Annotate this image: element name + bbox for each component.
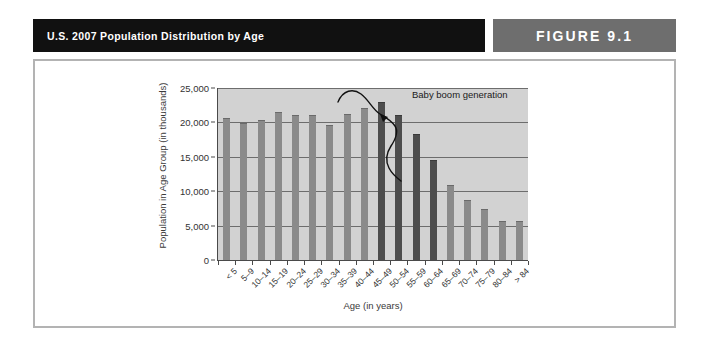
figure-number-label: FIGURE 9.1 xyxy=(536,28,633,44)
y-tick-label: 5,000 xyxy=(185,220,209,231)
x-tick-mark xyxy=(494,261,495,265)
bars-container xyxy=(218,88,528,260)
y-tick-label: 25,000 xyxy=(180,83,209,94)
y-tick-mark xyxy=(211,122,215,123)
y-axis-ticks: 25,00020,00015,00010,0005,0000 xyxy=(155,88,215,260)
x-tick-mark xyxy=(528,261,529,265)
x-tick-label: > 84 xyxy=(513,266,532,285)
bar-40-44 xyxy=(361,108,368,260)
bar-60-64 xyxy=(430,160,437,260)
x-tick-mark xyxy=(373,261,374,265)
y-tick-label: 10,000 xyxy=(180,186,209,197)
y-tick-mark xyxy=(211,225,215,226)
x-tick-mark xyxy=(218,261,219,265)
x-tick-mark xyxy=(235,261,236,265)
x-tick-mark xyxy=(287,261,288,265)
bar-20-24 xyxy=(292,115,299,260)
bar-5-9 xyxy=(240,123,247,260)
x-tick-mark xyxy=(511,261,512,265)
x-tick-mark xyxy=(459,261,460,265)
bar-45-49 xyxy=(378,102,385,260)
x-tick-mark xyxy=(252,261,253,265)
annotation-baby-boom-generation: Baby boom generation xyxy=(412,89,508,100)
x-tick-mark xyxy=(304,261,305,265)
x-tick-mark xyxy=(425,261,426,265)
bar-25-29 xyxy=(309,115,316,260)
bar-70-74 xyxy=(464,200,471,260)
x-tick-mark xyxy=(442,261,443,265)
y-tick-label: 20,000 xyxy=(180,117,209,128)
x-tick-mark xyxy=(321,261,322,265)
bar-75-79 xyxy=(481,209,488,260)
x-tick-mark xyxy=(270,261,271,265)
x-tick-mark xyxy=(339,261,340,265)
y-tick-mark xyxy=(211,88,215,89)
bar-80-84 xyxy=(499,221,506,260)
bar-55-59 xyxy=(413,134,420,260)
bar-15-19 xyxy=(275,112,282,260)
bar-5 xyxy=(223,118,230,260)
bar-50-54 xyxy=(395,115,402,260)
x-tick-mark xyxy=(356,261,357,265)
y-tick-mark xyxy=(211,191,215,192)
x-tick-label: < 5 xyxy=(223,266,239,282)
figure-header-band: U.S. 2007 Population Distribution by Age xyxy=(33,19,485,52)
bar-84 xyxy=(516,221,523,260)
x-tick-mark xyxy=(390,261,391,265)
bar-35-39 xyxy=(344,114,351,260)
x-tick-mark xyxy=(476,261,477,265)
y-tick-label: 15,000 xyxy=(180,151,209,162)
y-tick-label: 0 xyxy=(204,255,209,266)
bar-65-69 xyxy=(447,185,454,260)
figure-number-badge: FIGURE 9.1 xyxy=(493,19,676,52)
y-tick-mark xyxy=(211,156,215,157)
x-tick-mark xyxy=(407,261,408,265)
bar-10-14 xyxy=(258,120,265,260)
y-tick-mark xyxy=(211,260,215,261)
x-axis-ticks xyxy=(218,261,528,265)
bar-30-34 xyxy=(326,125,333,260)
x-axis-labels: < 55–910–1415–1920–2425–2930–3435–3940–4… xyxy=(218,266,528,300)
x-axis-title: Age (in years) xyxy=(217,300,529,311)
bar-chart: Population in Age Group (in thousands) 2… xyxy=(155,78,555,313)
